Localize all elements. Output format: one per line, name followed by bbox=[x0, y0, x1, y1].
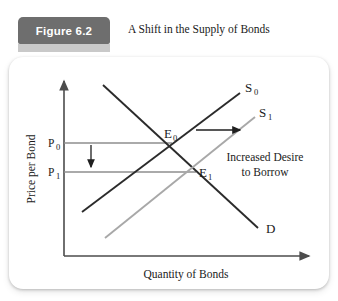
x-axis-label: Quantity of Bonds bbox=[144, 268, 229, 281]
tick-label-p1: P bbox=[48, 166, 54, 178]
label-e0-subscript: 0 bbox=[173, 133, 177, 143]
label-e1: E bbox=[199, 165, 207, 180]
increased-desire-line1: Increased Desire bbox=[227, 151, 304, 163]
label-e1-subscript: 1 bbox=[208, 172, 212, 182]
label-s1-subscript: 1 bbox=[268, 112, 272, 122]
label-s0-subscript: 0 bbox=[254, 87, 258, 97]
tick-label-p1-subscript: 1 bbox=[56, 171, 60, 181]
label-e0: E bbox=[164, 126, 172, 141]
figure-title: A Shift in the Supply of Bonds bbox=[128, 23, 270, 35]
figure-header: Figure 6.2 A Shift in the Supply of Bond… bbox=[0, 0, 338, 56]
label-d: D bbox=[266, 221, 275, 236]
label-s1: S bbox=[259, 105, 266, 120]
y-axis-label: Price per Bond bbox=[25, 134, 38, 203]
supply-curve-s0 bbox=[82, 93, 240, 212]
tick-label-p0-subscript: 0 bbox=[56, 142, 60, 152]
figure-number-badge: Figure 6.2 bbox=[18, 17, 110, 44]
supply-demand-chart: S 0 S 1 D E 0 E 1 P 0 P 1 Increased Desi… bbox=[9, 57, 329, 289]
label-s0: S bbox=[245, 80, 252, 95]
figure-card: S 0 S 1 D E 0 E 1 P 0 P 1 Increased Desi… bbox=[9, 57, 329, 289]
tick-label-p0: P bbox=[48, 137, 54, 149]
figure-page: Figure 6.2 A Shift in the Supply of Bond… bbox=[0, 0, 338, 301]
badge-shadow bbox=[18, 44, 110, 52]
figure-number-label: Figure 6.2 bbox=[36, 25, 92, 37]
increased-desire-line2: to Borrow bbox=[242, 166, 290, 178]
